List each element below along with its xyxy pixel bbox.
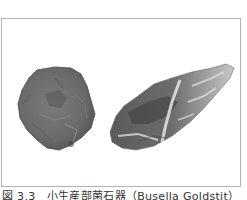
left-stone-tool-image	[15, 64, 99, 152]
figure-caption: 図 3.3 小生産部菌石器（Busella Goldstit）	[2, 190, 239, 200]
figure-frame	[1, 18, 241, 187]
right-stone-tool-image	[108, 62, 236, 152]
